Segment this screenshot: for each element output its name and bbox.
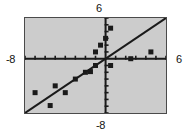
- y-axis-max-label: 6: [96, 3, 102, 14]
- plot-canvas: [25, 18, 166, 113]
- data-point: [93, 49, 98, 54]
- data-point: [88, 69, 93, 74]
- data-point: [53, 83, 58, 88]
- data-point: [73, 77, 78, 82]
- data-point: [98, 43, 103, 48]
- data-point: [103, 36, 108, 41]
- scatter-plot-figure: 6 -8 -8 6: [0, 0, 192, 136]
- data-point: [108, 63, 113, 68]
- data-point: [48, 103, 53, 108]
- data-point: [93, 63, 98, 68]
- plot-area: [24, 17, 167, 114]
- data-point: [63, 90, 68, 95]
- data-point: [83, 70, 88, 75]
- data-point: [33, 90, 38, 95]
- data-point: [108, 26, 113, 31]
- x-axis-min-label: -8: [6, 54, 15, 65]
- x-axis-max-label: 6: [176, 54, 182, 65]
- data-point: [128, 56, 133, 61]
- data-point: [148, 49, 153, 54]
- y-axis-min-label: -8: [96, 120, 105, 131]
